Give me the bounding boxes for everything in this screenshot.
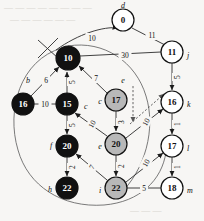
ghost-text-line: — — — — — — — — xyxy=(4,2,92,12)
vertex-name-label: c xyxy=(98,97,102,106)
node-value: 22 xyxy=(112,183,122,193)
edge-weight-label: 7 xyxy=(94,74,98,83)
graph-figure: 0111016151716202017222218 djbccekfelhim … xyxy=(0,0,204,221)
node-value: 15 xyxy=(63,99,73,109)
vertex-name-label: k xyxy=(187,100,191,109)
graph-node[interactable]: 17 xyxy=(105,89,127,111)
graph-node[interactable]: 0 xyxy=(112,9,134,31)
vertex-name-label: d xyxy=(121,1,126,10)
node-value: 18 xyxy=(168,183,178,193)
edge-weight-label: 3 xyxy=(117,120,126,124)
node-value: 17 xyxy=(168,141,178,151)
graph-node[interactable]: 10 xyxy=(56,46,80,70)
graph-node[interactable]: 15 xyxy=(56,93,78,115)
graph-node[interactable]: 22 xyxy=(105,177,127,199)
edge-weight-label: 5 xyxy=(173,75,182,79)
graph-node[interactable]: 16 xyxy=(12,93,34,115)
graph-svg: 0111016151716202017222218 djbccekfelhim … xyxy=(0,0,204,221)
graph-node[interactable]: 16 xyxy=(161,91,183,113)
vertex-name-label: m xyxy=(187,186,193,195)
edge-weight-label: 5 xyxy=(142,184,146,193)
node-value: 22 xyxy=(63,183,73,193)
node-value: 10 xyxy=(64,53,74,63)
edge-weight-label: 30 xyxy=(121,51,129,60)
node-value: 0 xyxy=(121,15,126,25)
graph-node[interactable]: 20 xyxy=(56,135,78,157)
edge-weight-label: 6 xyxy=(44,76,48,85)
node-value: 17 xyxy=(112,95,122,105)
ghost-text-line: — — — xyxy=(130,205,162,215)
edge-weight-label: 5 xyxy=(68,123,77,127)
edge-weight-label: 2 xyxy=(117,164,126,168)
vertex-name-label: j xyxy=(186,51,190,60)
vertex-name-label: e xyxy=(98,142,102,151)
vertex-name-label: c xyxy=(84,102,88,111)
vertex-name-label: i xyxy=(99,186,101,195)
edge-weight-label: 5 xyxy=(68,80,77,84)
graph-node[interactable]: 11 xyxy=(161,41,183,63)
graph-node[interactable]: 17 xyxy=(161,135,183,157)
edge-weight-label: 1 xyxy=(173,165,182,169)
edge-weight-label: 2 xyxy=(68,165,77,169)
edge-weight-label: 11 xyxy=(148,31,155,40)
graph-node[interactable]: 20 xyxy=(105,133,127,155)
vertex-name-label: l xyxy=(187,144,190,153)
vertex-name-label: f xyxy=(50,141,54,150)
edge-weight-label: 1 xyxy=(173,122,182,126)
vertex-name-label: e xyxy=(121,76,125,85)
x-strike-icon xyxy=(38,38,58,58)
node-value: 20 xyxy=(63,141,73,151)
vertex-name-label: h xyxy=(48,185,52,194)
node-value: 11 xyxy=(168,47,177,57)
edge-weight-label: 10 xyxy=(88,34,96,43)
node-value: 16 xyxy=(168,97,178,107)
vertex-name-label: b xyxy=(26,76,30,85)
graph-node[interactable]: 22 xyxy=(56,177,78,199)
ghost-text-line: — — — — — — xyxy=(10,14,75,24)
node-value: 16 xyxy=(19,99,29,109)
graph-node[interactable]: 18 xyxy=(161,177,183,199)
edge-weight-label: 10 xyxy=(41,100,49,109)
node-value: 20 xyxy=(112,139,122,149)
